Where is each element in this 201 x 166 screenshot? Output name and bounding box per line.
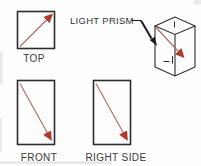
light-prism-label: LIGHT PRISM bbox=[70, 15, 134, 26]
figure-svg: TOP FRONT RIGHT SIDE bbox=[0, 0, 201, 166]
right-side-view-light-ray-arrow bbox=[96, 84, 127, 140]
front-view-light-ray-arrow bbox=[20, 84, 51, 140]
light-prism-callout: LIGHT PRISM bbox=[70, 15, 157, 46]
top-view-light-ray-arrow bbox=[20, 15, 52, 47]
top-view: TOP bbox=[18, 12, 55, 64]
leader-line-diagonal bbox=[141, 21, 152, 39]
front-view: FRONT bbox=[18, 81, 58, 164]
prism-pictorial bbox=[155, 17, 195, 76]
orthographic-projection-figure: TOP FRONT RIGHT SIDE bbox=[0, 0, 201, 166]
right-side-view: RIGHT SIDE bbox=[85, 81, 146, 164]
right-side-view-label: RIGHT SIDE bbox=[85, 152, 146, 163]
prism-centerline-dashes bbox=[164, 22, 175, 64]
front-view-label: FRONT bbox=[21, 152, 57, 163]
top-view-label: TOP bbox=[23, 53, 45, 64]
